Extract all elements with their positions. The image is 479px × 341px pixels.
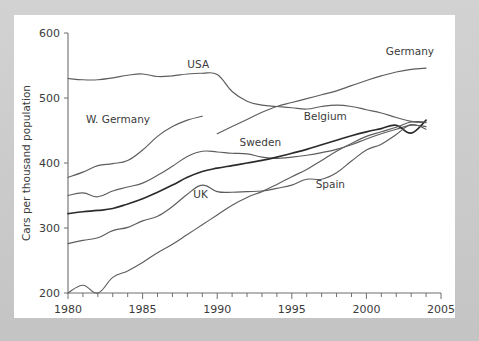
x-tick-label: 1980 bbox=[54, 303, 82, 316]
series-label-w-germany: W. Germany bbox=[86, 113, 150, 125]
chart-card: 200300400500600198019851990199520002005C… bbox=[14, 15, 455, 318]
screenshot-root: 200300400500600198019851990199520002005C… bbox=[0, 0, 479, 341]
series-label-sweden: Sweden bbox=[240, 136, 282, 148]
series-label-usa: USA bbox=[187, 58, 210, 70]
y-tick-label: 600 bbox=[39, 27, 60, 40]
x-tick-label: 1995 bbox=[278, 303, 306, 316]
y-tick-label: 500 bbox=[39, 92, 60, 105]
x-tick-label: 2000 bbox=[352, 303, 380, 316]
x-tick-label: 1985 bbox=[129, 303, 157, 316]
y-tick-label: 300 bbox=[39, 222, 60, 235]
series-label-belgium: Belgium bbox=[304, 110, 347, 122]
y-tick-label: 400 bbox=[39, 157, 60, 170]
series-line-w-germany bbox=[68, 116, 202, 177]
series-label-uk: UK bbox=[193, 188, 209, 200]
y-tick-label: 200 bbox=[39, 287, 60, 300]
series-label-germany: Germany bbox=[386, 45, 434, 57]
y-axis-title: Cars per thousand population bbox=[20, 85, 32, 241]
x-tick-label: 2005 bbox=[427, 303, 455, 316]
line-chart: 200300400500600198019851990199520002005C… bbox=[14, 15, 455, 318]
series-label-spain: Spain bbox=[316, 178, 345, 190]
x-tick-label: 1990 bbox=[203, 303, 231, 316]
series-line-germany bbox=[217, 68, 426, 134]
